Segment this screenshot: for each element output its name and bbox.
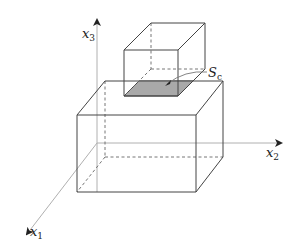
x1-axis [27,143,97,234]
axes [27,20,281,234]
x3-label: x3 [82,26,95,43]
x2-label: x2 [266,145,279,162]
contact-surface-label: Sc [208,65,222,82]
diagram-canvas: x3 x2 x1 Sc [0,0,299,249]
contact-surface [124,81,193,96]
large-box [77,81,223,192]
x1-label: x1 [30,224,43,241]
